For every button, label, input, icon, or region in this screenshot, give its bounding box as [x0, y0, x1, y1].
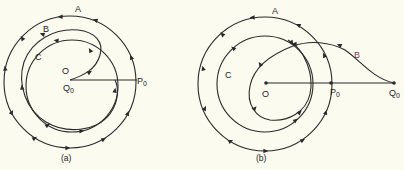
arrow-icon	[125, 110, 131, 116]
arrow-icon	[2, 65, 7, 71]
label-b: B	[43, 24, 49, 34]
point-p0	[329, 81, 333, 85]
point-o	[264, 81, 268, 85]
caption-b: (b)	[256, 153, 267, 163]
label-q0: Q0	[63, 83, 74, 94]
arrow-icon	[200, 65, 206, 71]
label-q0: Q0	[389, 88, 400, 99]
arrow-icon	[323, 109, 329, 115]
caption-a: (a)	[61, 153, 72, 163]
figure-canvas: A B C O Q0 P0 (a)	[0, 0, 404, 170]
label-a: A	[272, 6, 278, 16]
label-o: O	[262, 89, 269, 99]
panel-b: A B C O P0 Q0 (b)	[198, 6, 400, 163]
arrow-icon	[65, 146, 70, 150]
label-c: C	[225, 70, 232, 80]
label-p0: P0	[330, 87, 340, 98]
arrow-icon	[53, 38, 58, 43]
arrow-icon	[128, 54, 134, 60]
arrow-icon	[20, 84, 25, 89]
label-a: A	[75, 4, 81, 14]
arrow-icon	[58, 15, 63, 19]
arrow-icon	[87, 47, 93, 54]
panel-a: A B C O Q0 P0 (a)	[2, 4, 147, 163]
label-c: C	[35, 52, 42, 62]
curve-b	[249, 40, 394, 120]
arrow-icon	[19, 35, 25, 42]
label-o: O	[62, 66, 69, 76]
label-p0: P0	[137, 76, 147, 87]
label-b: B	[354, 50, 360, 60]
point-q0	[392, 81, 396, 85]
